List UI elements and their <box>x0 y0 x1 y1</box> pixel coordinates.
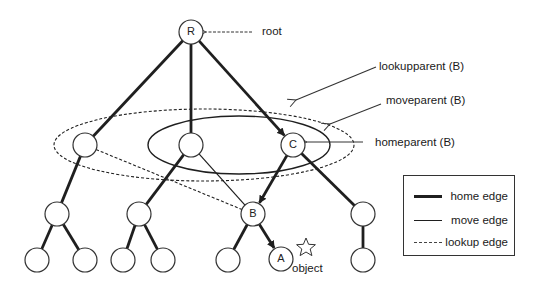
tree-node <box>216 248 240 272</box>
tree-node <box>151 248 175 272</box>
move-edge-swatch <box>414 220 442 221</box>
root-label: root <box>262 26 282 38</box>
home-edge-C-n5 <box>302 153 355 205</box>
lookupparent-region <box>54 109 354 181</box>
tree-node <box>351 202 375 226</box>
home-edge-swatch <box>414 195 442 198</box>
tree-node <box>45 202 69 226</box>
home-edge-C-B <box>260 155 287 202</box>
move-edge-n2-B <box>199 154 245 205</box>
legend-label: move edge <box>451 214 508 226</box>
star-icon <box>297 238 316 256</box>
home-edge-n3-l2 <box>63 224 79 249</box>
tree-node <box>351 248 375 272</box>
lookupparent-pointer-arrow <box>296 67 376 100</box>
legend-item-move-edge: move edge <box>404 214 514 228</box>
home-edge-B-A <box>259 224 274 248</box>
object-label: object <box>292 263 323 275</box>
moveparent-pointer-arrow <box>330 104 381 124</box>
node-label-B: B <box>243 208 263 219</box>
legend-label: home edge <box>450 190 508 202</box>
home-edge-B-l5 <box>234 225 248 250</box>
tree-node <box>73 248 97 272</box>
annotation-arrows <box>206 32 381 142</box>
home-edge-n4-l4 <box>145 225 158 250</box>
tree-node <box>179 133 203 157</box>
legend-item-home-edge: home edge <box>404 190 514 204</box>
legend-item-lookup-edge: lookup edge <box>404 236 514 250</box>
moveparent-label: moveparent (B) <box>386 95 465 107</box>
tree-node <box>111 248 135 272</box>
homeparent-label: homeparent (B) <box>375 137 455 149</box>
tree-node <box>73 133 97 157</box>
tree-nodes <box>25 20 375 272</box>
parent-regions <box>54 109 354 181</box>
node-label-A: A <box>271 253 291 264</box>
lookup-edge-swatch <box>414 242 442 243</box>
home-edge-R-n1 <box>93 41 183 136</box>
home-edge-n1-n3 <box>62 156 81 203</box>
tree-node <box>25 248 49 272</box>
node-label-C: C <box>283 139 303 150</box>
node-label-R: R <box>181 26 201 37</box>
tree-node <box>127 202 151 226</box>
legend-label: lookup edge <box>445 236 508 248</box>
legend: home edge move edge lookup edge <box>403 175 515 256</box>
home-edge-n4-l3 <box>127 225 135 248</box>
home-edge-n3-l1 <box>42 225 52 249</box>
home-edge-R-C <box>199 41 284 135</box>
lookupparent-label: lookupparent (B) <box>379 61 464 73</box>
